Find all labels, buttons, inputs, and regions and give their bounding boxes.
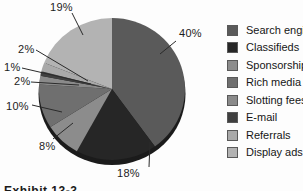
legend-label: Sponsorship (246, 60, 303, 71)
legend-item: Search engine (227, 24, 303, 37)
slice-percent-label: 2% (14, 76, 31, 87)
legend-item: Display ads (227, 146, 303, 159)
legend-item: Sponsorship (227, 59, 303, 72)
slice-percent-label: 40% (179, 28, 202, 39)
legend-label: Search engine (246, 25, 303, 36)
legend-label: Referrals (246, 130, 291, 141)
legend: Search engine Classifieds Sponsorship Ri… (227, 24, 303, 159)
slice-percent-label: 1% (4, 62, 21, 73)
legend-item: Classifieds (227, 41, 303, 54)
legend-item: Slotting fees (227, 94, 303, 107)
legend-label: Slotting fees (246, 95, 303, 106)
legend-label: Classifieds (246, 42, 299, 53)
legend-item: Rich media (227, 76, 303, 89)
legend-swatch (227, 130, 238, 141)
legend-swatch (227, 95, 238, 106)
legend-swatch (227, 42, 238, 53)
pie-chart-figure: 40% 18% 8% 10% 2% 1% 2% 19% Search engin… (0, 0, 303, 191)
slice-percent-label: 10% (6, 101, 29, 112)
exhibit-caption: Exhibit 13-3 (4, 184, 77, 191)
slice-percent-label: 2% (18, 44, 35, 55)
legend-swatch (227, 77, 238, 88)
slice-percent-label: 18% (117, 168, 140, 179)
legend-label: Rich media (246, 77, 301, 88)
legend-label: E-mail (246, 112, 277, 123)
slice-percent-label: 19% (50, 2, 73, 13)
legend-label: Display ads (246, 147, 303, 158)
slice-percent-label: 8% (39, 141, 56, 152)
legend-swatch (227, 60, 238, 71)
legend-swatch (227, 112, 238, 123)
legend-item: Referrals (227, 129, 303, 142)
legend-item: E-mail (227, 111, 303, 124)
legend-swatch (227, 25, 238, 36)
legend-swatch (227, 147, 238, 158)
